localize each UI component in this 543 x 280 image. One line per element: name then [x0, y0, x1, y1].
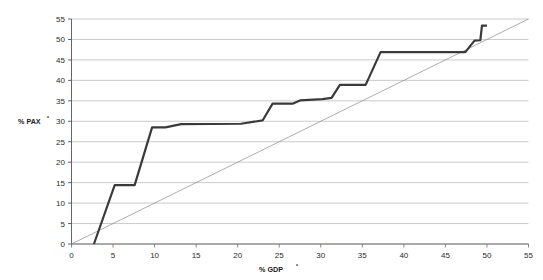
y-tick-label-25: 25: [56, 138, 65, 147]
x-tick-label-50: 50: [483, 251, 492, 260]
concentration-curve-chart: 0510152025303540455055 05101520253035404…: [0, 0, 543, 280]
y-tick-label-40: 40: [56, 76, 65, 85]
x-tick-label-30: 30: [316, 251, 325, 260]
y-tick-label-45: 45: [56, 56, 65, 65]
y-axis-title-superscript: *: [47, 115, 49, 121]
x-tick-label-0: 0: [69, 251, 74, 260]
y-tick-label-35: 35: [56, 97, 65, 106]
x-axis-title: % GDP: [259, 265, 283, 274]
chart-background: [0, 0, 543, 280]
x-tick-label-15: 15: [192, 251, 201, 260]
y-tick-label-55: 55: [56, 15, 65, 24]
y-tick-label-15: 15: [56, 179, 65, 188]
y-tick-label-5: 5: [61, 220, 66, 229]
y-tick-label-30: 30: [56, 117, 65, 126]
y-axis-title: % PAX: [18, 117, 41, 126]
x-tick-label-40: 40: [399, 251, 408, 260]
x-axis-title-superscript: *: [296, 263, 298, 269]
y-tick-label-50: 50: [56, 35, 65, 44]
x-tick-label-55: 55: [524, 251, 533, 260]
x-tick-label-45: 45: [441, 251, 450, 260]
x-tick-label-10: 10: [150, 251, 159, 260]
chart-container: 0510152025303540455055 05101520253035404…: [0, 0, 543, 280]
x-tick-label-20: 20: [233, 251, 242, 260]
x-tick-label-25: 25: [275, 251, 284, 260]
x-tick-label-5: 5: [111, 251, 116, 260]
y-tick-label-20: 20: [56, 158, 65, 167]
y-tick-label-10: 10: [56, 199, 65, 208]
y-tick-label-0: 0: [61, 240, 66, 249]
x-tick-label-35: 35: [358, 251, 367, 260]
